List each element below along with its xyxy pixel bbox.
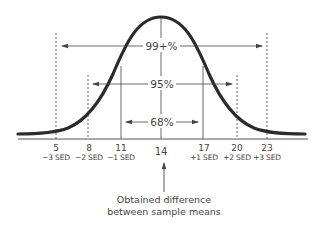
tick-value-17: 17	[198, 143, 209, 153]
tick-value-8: 8	[86, 143, 92, 153]
tick-value-11: 11	[115, 143, 126, 153]
tick-sed-plus1: +1 SED	[190, 153, 218, 162]
tick-sed-minus3: −3 SED	[42, 153, 70, 162]
tick-value-23: 23	[261, 143, 272, 153]
tick-value-mean: 14	[155, 146, 168, 157]
tick-sed-plus2: +2 SED	[223, 153, 251, 162]
tick-value-5: 5	[53, 143, 59, 153]
label-68-percent: 68%	[150, 116, 173, 128]
tick-sed-plus3: +3 SED	[253, 153, 281, 162]
tick-sed-minus2: −2 SED	[75, 153, 103, 162]
caption-line-2: between sample means	[107, 206, 221, 217]
tick-value-20: 20	[231, 143, 243, 153]
label-99-percent: 99+%	[145, 40, 177, 52]
normal-distribution-diagram: 99+% 95% 68% 5 −3 SED 8 −2 SED 11 −1 SED…	[0, 0, 321, 227]
tick-sed-minus1: −1 SED	[107, 153, 135, 162]
caption-line-1: Obtained difference	[117, 194, 211, 205]
label-95-percent: 95%	[150, 78, 173, 90]
